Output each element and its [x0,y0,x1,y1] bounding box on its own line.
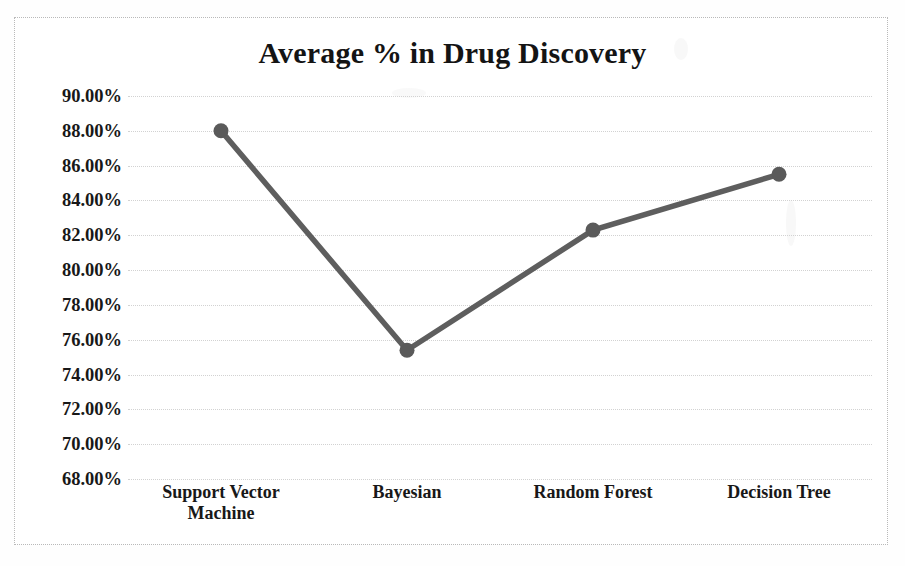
y-tick-label: 74.00% [18,365,122,384]
y-tick-label: 72.00% [18,400,122,419]
x-tick-label-line: Random Forest [504,482,682,503]
chart-figure: Average % in Drug Discovery 90.00%88.00%… [0,0,905,566]
gridline [128,479,872,480]
y-tick-label: 70.00% [18,435,122,454]
y-tick-label: 88.00% [18,122,122,141]
x-tick-label: Support VectorMachine [132,482,310,524]
line-series: Support Vector Machine: 88.00%Bayesian: … [128,96,872,479]
y-tick-label: 76.00% [18,330,122,349]
y-tick-label: 82.00% [18,226,122,245]
x-tick-label: Bayesian [318,482,496,503]
y-axis-tick-labels: 90.00%88.00%86.00%84.00%82.00%80.00%78.0… [18,96,122,479]
x-axis-tick-labels: Support VectorMachineBayesianRandom Fore… [128,482,872,540]
data-point-marker[interactable]: Random Forest: 82.30% [586,223,601,238]
x-tick-label-line: Decision Tree [690,482,868,503]
x-tick-label: Random Forest [504,482,682,503]
x-tick-label-line: Bayesian [318,482,496,503]
y-tick-label: 90.00% [18,87,122,106]
data-point-marker[interactable]: Support Vector Machine: 88.00% [214,123,229,138]
plot-area: Support Vector Machine: 88.00%Bayesian: … [128,96,872,479]
data-point-marker[interactable]: Bayesian: 75.40% [400,343,415,358]
y-tick-label: 68.00% [18,470,122,489]
x-tick-label-line: Machine [132,503,310,524]
y-tick-label: 80.00% [18,261,122,280]
x-tick-label-line: Support Vector [132,482,310,503]
x-tick-label: Decision Tree [690,482,868,503]
data-point-marker[interactable]: Decision Tree: 85.50% [772,167,787,182]
y-tick-label: 84.00% [18,191,122,210]
plot-wrapper: 90.00%88.00%86.00%84.00%82.00%80.00%78.0… [0,0,905,566]
y-tick-label: 86.00% [18,156,122,175]
series-line [221,131,779,350]
y-tick-label: 78.00% [18,296,122,315]
